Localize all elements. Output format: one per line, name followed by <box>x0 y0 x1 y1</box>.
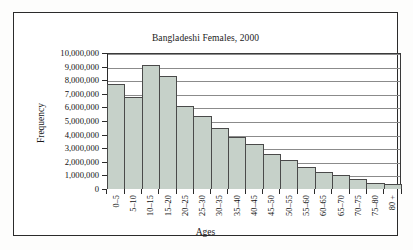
x-axis-tick-label: 5–10 <box>128 195 137 212</box>
y-axis-tick-label: 6,000,000 <box>65 102 99 112</box>
x-axis-tick-label-cell: 65–70 <box>332 195 349 229</box>
x-axis-tick-label: 55–60 <box>301 195 310 216</box>
bar <box>124 97 142 189</box>
x-axis-tick-label: 50–55 <box>284 195 293 216</box>
x-axis-tick-label: 10–15 <box>146 195 155 216</box>
x-axis-tick-label-cell: 35–40 <box>228 195 245 229</box>
x-axis-tick <box>349 189 366 194</box>
bar <box>245 144 263 189</box>
bar <box>142 65 160 189</box>
chart-page: Bangladeshi Females, 2000 Frequency 01,0… <box>0 0 413 250</box>
bar <box>176 106 194 189</box>
x-axis-tick <box>245 189 262 194</box>
y-axis-tick-label: 3,000,000 <box>65 143 99 153</box>
x-axis-tick <box>297 189 314 194</box>
x-axis-label: Ages <box>14 227 397 237</box>
x-axis-ticks <box>107 189 401 194</box>
x-axis-tick-label-cell: 40–45 <box>245 195 262 229</box>
y-axis: 01,000,0002,000,0003,000,0004,000,0005,0… <box>14 53 107 189</box>
x-axis-tick-label: 70–75 <box>353 195 362 216</box>
y-axis-tick-label: 7,000,000 <box>65 89 99 99</box>
chart-title: Bangladeshi Females, 2000 <box>14 33 397 43</box>
y-axis-tick-label: 1,000,000 <box>65 170 99 180</box>
x-axis-tick <box>193 189 210 194</box>
y-axis-tick-label: 5,000,000 <box>65 116 99 126</box>
x-axis-tick-label: 40–45 <box>250 195 259 216</box>
x-axis-tick-label: 0–5 <box>111 195 120 208</box>
bar <box>193 116 211 189</box>
x-axis-tick <box>315 189 332 194</box>
bar <box>159 76 177 189</box>
x-axis-tick-label-cell: 80 + <box>384 195 401 229</box>
bar <box>315 172 333 189</box>
bar <box>211 128 229 189</box>
bar <box>332 175 350 189</box>
x-axis-tick-label-cell: 30–35 <box>211 195 228 229</box>
y-axis-tick-label: 2,000,000 <box>65 157 99 167</box>
x-axis-tick-label-cell: 55–60 <box>297 195 314 229</box>
x-axis-tick-labels: 0–55–1010–1515–2020–2525–3030–3535–4040–… <box>107 195 401 229</box>
y-axis-tick-label: 9,000,000 <box>65 62 99 72</box>
bar <box>228 137 246 189</box>
x-axis-tick <box>263 189 280 194</box>
x-axis-tick <box>228 189 245 194</box>
bar <box>297 167 315 189</box>
x-axis-tick-label-cell: 75–80 <box>366 195 383 229</box>
x-axis-tick <box>142 189 159 194</box>
y-axis-tick-label: 8,000,000 <box>65 75 99 85</box>
x-axis-tick-label-cell: 0–5 <box>107 195 124 229</box>
x-axis-tick-label: 30–35 <box>215 195 224 216</box>
x-axis-tick-label: 20–25 <box>180 195 189 216</box>
x-axis-tick <box>176 189 193 194</box>
x-axis-tick-label-cell: 25–30 <box>193 195 210 229</box>
bar <box>349 179 367 189</box>
x-axis-tick-label-cell: 15–20 <box>159 195 176 229</box>
x-axis-tick-label: 65–70 <box>336 195 345 216</box>
x-axis-tick-label: 60–65 <box>319 195 328 216</box>
x-axis-tick <box>332 189 349 194</box>
x-axis-tick-label: 45–50 <box>267 195 276 216</box>
x-axis-tick-label-cell: 20–25 <box>176 195 193 229</box>
bar <box>107 84 125 189</box>
y-axis-tick-label: 4,000,000 <box>65 130 99 140</box>
x-axis-tick <box>211 189 228 194</box>
x-axis-tick-label-cell: 45–50 <box>263 195 280 229</box>
x-axis-tick-label-cell: 60–65 <box>315 195 332 229</box>
x-axis-tick-label: 80 + <box>388 195 397 210</box>
x-axis-tick-label: 15–20 <box>163 195 172 216</box>
x-axis-tick-label-cell: 10–15 <box>142 195 159 229</box>
x-axis-tick <box>280 189 297 194</box>
x-axis-tick-label: 75–80 <box>371 195 380 216</box>
x-axis-tick-label-cell: 70–75 <box>349 195 366 229</box>
x-axis-tick-label: 25–30 <box>198 195 207 216</box>
x-axis-tick-label-cell: 5–10 <box>124 195 141 229</box>
bar-series <box>107 53 401 189</box>
chart-frame: Bangladeshi Females, 2000 Frequency 01,0… <box>13 12 398 236</box>
y-axis-tick-label: 0 <box>95 184 99 194</box>
bar <box>280 160 298 189</box>
x-axis-tick-end <box>401 189 402 194</box>
x-axis-tick <box>384 189 401 194</box>
x-axis-tick <box>366 189 383 194</box>
y-axis-tick-label: 10,000,000 <box>60 48 99 58</box>
x-axis-tick-label: 35–40 <box>232 195 241 216</box>
bar <box>263 154 281 189</box>
x-axis-tick <box>159 189 176 194</box>
x-axis-tick-label-cell: 50–55 <box>280 195 297 229</box>
x-axis-tick <box>124 189 141 194</box>
x-axis-tick <box>107 189 124 194</box>
